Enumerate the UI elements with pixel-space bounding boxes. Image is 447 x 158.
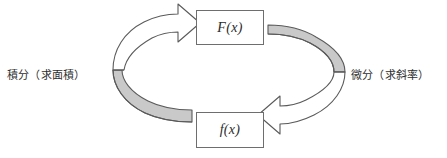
right-arrow-ribbon-edge [268,34,334,72]
edge-label-differentiation: 微分（求斜率） [351,66,429,82]
right-arrow-group [258,25,345,134]
left-arrow-ribbon-shadow [113,70,192,122]
edge-label-integration: 積分（求面積） [7,66,85,82]
left-arrow-group [113,4,200,122]
node-box-lowercase-f-of-x: f(x) [196,112,264,148]
left-arrow-head [113,4,200,70]
right-arrow-ribbon-shadow [268,25,345,72]
node-box-capital-f-of-x: F(x) [196,10,264,45]
diagram-canvas: F(x) f(x) 積分（求面積） 微分（求斜率） [0,0,447,158]
right-arrow-head [258,72,345,134]
